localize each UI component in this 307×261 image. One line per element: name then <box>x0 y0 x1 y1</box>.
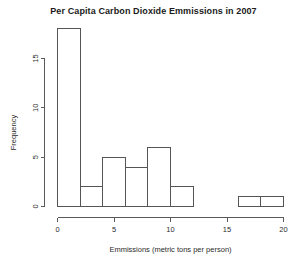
histogram-bar <box>125 167 148 207</box>
y-axis-title: Frequency <box>9 115 18 151</box>
y-tick-label-5: 5 <box>31 155 40 159</box>
x-tick-label-5: 5 <box>112 225 116 234</box>
histogram-bar <box>171 187 194 207</box>
histogram-bar <box>103 157 126 206</box>
histogram-bar <box>80 187 103 207</box>
histogram-bar <box>261 197 284 207</box>
x-tick-label-15: 15 <box>223 225 231 234</box>
bars-group <box>58 29 284 207</box>
histogram-bar <box>238 197 261 207</box>
plot-area: 05101505101520Emmissions (metric tons pe… <box>0 0 307 261</box>
histogram-bar <box>148 147 171 206</box>
histogram-bar <box>58 29 81 207</box>
y-tick-label-0: 0 <box>31 204 40 208</box>
histogram-figure: Per Capita Carbon Dioxide Emmissions in … <box>0 0 307 261</box>
x-axis-title: Emmissions (metric tons per person) <box>109 245 232 254</box>
x-tick-label-0: 0 <box>55 225 59 234</box>
y-tick-label-15: 15 <box>31 54 40 62</box>
x-tick-label-20: 20 <box>279 225 287 234</box>
y-tick-label-10: 10 <box>31 104 40 112</box>
x-tick-label-10: 10 <box>166 225 174 234</box>
